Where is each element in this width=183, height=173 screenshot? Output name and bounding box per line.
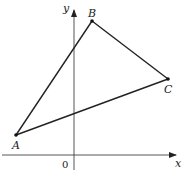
point-a: [14, 133, 18, 137]
diagram-canvas: y x 0 A B C: [0, 0, 183, 173]
label-point-b: B: [87, 7, 96, 20]
label-x-axis: x: [175, 157, 182, 170]
label-y-axis: y: [62, 2, 70, 15]
label-origin: 0: [62, 159, 68, 170]
label-point-c: C: [164, 83, 173, 96]
segment-ac: [16, 79, 168, 135]
point-c: [166, 77, 170, 81]
segment-ab: [16, 21, 92, 135]
label-point-a: A: [11, 139, 20, 152]
segment-bc: [92, 21, 168, 79]
